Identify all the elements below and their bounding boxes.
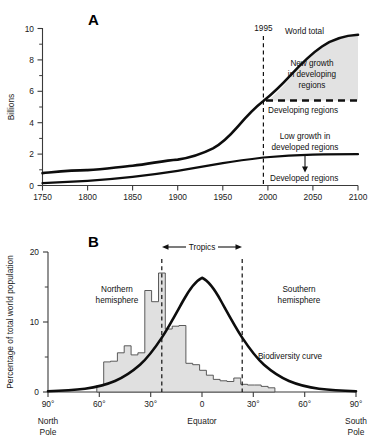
panel-b-ytick-20: 20	[30, 247, 40, 257]
panel-b-xtick-30s: 30°	[247, 399, 260, 409]
panel-a-year-1995-label: 1995	[254, 24, 273, 33]
panel-b-xtick-60n: 60°	[93, 399, 106, 409]
panel-a-world-total-label: World total	[285, 27, 324, 36]
panel-a-new-growth-label-2: in developing	[288, 70, 337, 79]
panel-a-low-growth-label-2: developed regions	[272, 143, 339, 152]
panel-b-y-axis-label: Percentage of total world population	[5, 255, 15, 389]
panel-b-xtick-60s: 60°	[298, 399, 311, 409]
panel-b-northern-label-2: hemisphere	[96, 296, 139, 305]
panel-b-southern-label-1: Southern	[282, 285, 316, 294]
panel-b-letter: B	[88, 233, 99, 250]
panel-b-south-pole-label-2: Pole	[348, 427, 365, 437]
panel-b-equator-label: Equator	[187, 416, 217, 426]
panel-a-xtick-1900: 1900	[168, 192, 187, 202]
panel-a-ytick-0: 0	[29, 181, 34, 191]
panel-b-tropics-label: Tropics	[189, 243, 216, 252]
panel-b-southern-label-2: hemisphere	[278, 296, 321, 305]
panel-a-xtick-2100: 2100	[349, 192, 368, 202]
panel-a-low-growth-label-1: Low growth in	[280, 132, 331, 141]
panel-b-xtick-0: 0	[200, 399, 205, 409]
panel-a-xtick-2000: 2000	[259, 192, 278, 202]
panel-b-north-pole-label-2: Pole	[40, 427, 57, 437]
panel-a-ytick-4: 4	[29, 118, 34, 128]
panel-a-xtick-1950: 1950	[213, 192, 232, 202]
panel-b-biodiversity-label: Biodiversity curve	[258, 352, 323, 361]
figure-svg: A 0 2 4 6	[0, 0, 370, 448]
panel-b-xtick-90n: 90°	[42, 399, 55, 409]
panel-b-xtick-90s: 90°	[350, 399, 363, 409]
panel-a-ytick-6: 6	[29, 86, 34, 96]
panel-a-ytick-8: 8	[29, 55, 34, 65]
panel-b-xtick-30n: 30°	[144, 399, 157, 409]
panel-a-y-axis-label: Billions	[6, 94, 16, 121]
panel-a-new-growth-label-1: New growth	[290, 59, 334, 68]
panel-a-xtick-1750: 1750	[33, 192, 52, 202]
panel-a-developing-regions-label: Developing regions	[268, 106, 338, 115]
panel-a-xtick-1800: 1800	[78, 192, 97, 202]
figure-container: A 0 2 4 6	[0, 0, 370, 448]
panel-b-north-pole-label-1: North	[38, 416, 59, 426]
panel-b-northern-label-1: Northern	[101, 285, 133, 294]
panel-a-developed-regions-label: Developed regions	[270, 174, 338, 183]
panel-a-new-growth-label-3: regions	[299, 81, 326, 90]
panel-b-ytick-10: 10	[30, 317, 40, 327]
panel-b-ytick-0: 0	[34, 387, 39, 397]
panel-b-south-pole-label-1: South	[345, 416, 367, 426]
panel-a-ytick-2: 2	[29, 149, 34, 159]
panel-a-ytick-10: 10	[25, 24, 35, 34]
panel-a-letter: A	[88, 11, 99, 28]
panel-a-xtick-2050: 2050	[304, 192, 323, 202]
panel-a-xtick-1850: 1850	[123, 192, 142, 202]
